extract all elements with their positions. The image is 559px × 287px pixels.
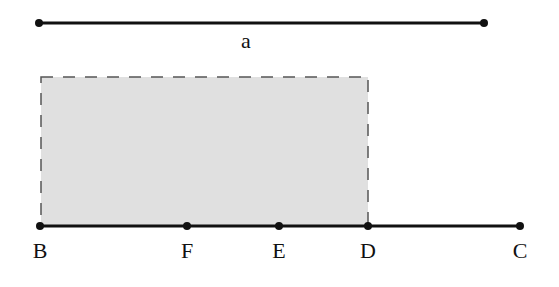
point-d [364,222,372,230]
points-group: BFEDC [33,222,528,263]
geometry-diagram: a BFEDC [0,0,559,287]
point-e [275,222,283,230]
point-c [516,222,524,230]
point-label-e: E [272,238,285,263]
point-label-d: D [360,238,376,263]
point-label-f: F [181,238,193,263]
segment-a-end-point [480,19,488,27]
segment-a-start-point [35,19,43,27]
shaded-rectangle [41,77,368,226]
point-f [183,222,191,230]
point-b [36,222,44,230]
segment-a-label: a [241,28,251,53]
point-label-c: C [513,238,528,263]
point-label-b: B [33,238,48,263]
